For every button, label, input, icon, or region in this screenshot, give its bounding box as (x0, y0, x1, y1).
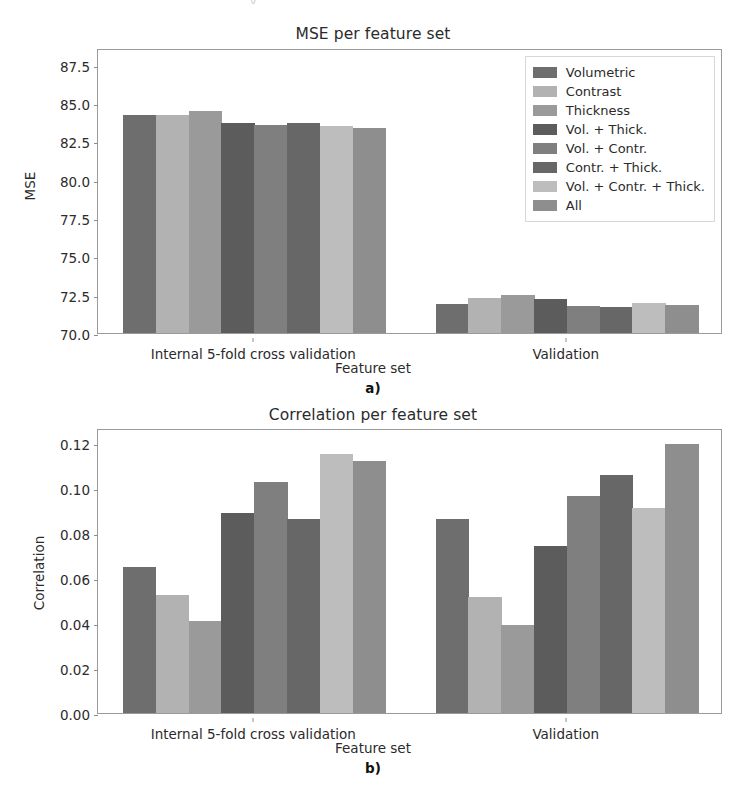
bar (534, 546, 567, 713)
y-tick-mark (94, 105, 98, 106)
y-tick-label: 77.5 (60, 212, 98, 228)
legend-mse: Volumetric Contrast Thickness Vol. + Thi… (525, 56, 715, 222)
y-tick-label: 0.12 (60, 437, 98, 453)
y-tick-label: 0.06 (60, 572, 98, 588)
bar (287, 519, 320, 713)
legend-swatch-icon (533, 181, 557, 192)
y-tick-label: 0.10 (60, 482, 98, 498)
x-axis-ticks-mse: Internal 5-fold cross validationValidati… (97, 338, 722, 358)
bar (123, 115, 156, 333)
figure-page: y MSE per feature set MSE 70.072.575.077… (0, 0, 746, 798)
legend-item-label: Vol. + Thick. (566, 123, 647, 136)
plot-area-correlation: 0.000.020.040.060.080.100.12 (97, 429, 722, 714)
legend-swatch-icon (533, 124, 557, 135)
panel-letter-a: a) (0, 380, 746, 396)
y-tick-label: 72.5 (60, 289, 98, 305)
x-axis-label-correlation: Feature set (0, 740, 746, 756)
bar (254, 125, 287, 333)
y-tick-mark (94, 670, 98, 671)
legend-item: Vol. + Contr. + Thick. (533, 177, 705, 196)
y-tick-mark (94, 445, 98, 446)
bar (534, 299, 567, 333)
x-tick-mark (253, 718, 254, 722)
y-tick-label: 80.0 (60, 174, 98, 190)
legend-item-label: Vol. + Contr. (566, 142, 647, 155)
bar (436, 304, 469, 333)
x-tick-mark (565, 338, 566, 342)
bar (501, 295, 534, 333)
bars-container-correlation (98, 430, 721, 713)
y-tick-mark (94, 625, 98, 626)
y-tick-label: 0.08 (60, 527, 98, 543)
legend-item: Contrast (533, 82, 705, 101)
y-tick-mark (94, 715, 98, 716)
legend-item: Vol. + Thick. (533, 120, 705, 139)
y-tick-label: 70.0 (60, 327, 98, 343)
legend-item: Thickness (533, 101, 705, 120)
bar (468, 597, 501, 713)
bar (632, 303, 665, 333)
legend-item-label: Volumetric (566, 66, 636, 79)
bar (353, 128, 386, 333)
x-axis-label-mse: Feature set (0, 360, 746, 376)
bar (123, 567, 156, 713)
y-tick-mark (94, 535, 98, 536)
legend-swatch-icon (533, 86, 557, 97)
y-tick-mark (94, 143, 98, 144)
y-axis-label-correlation: Correlation (31, 536, 47, 610)
y-tick-mark (94, 182, 98, 183)
legend-swatch-icon (533, 162, 557, 173)
x-axis-ticks-correlation: Internal 5-fold cross validationValidati… (97, 718, 722, 738)
legend-item-label: Thickness (566, 104, 630, 117)
y-tick-label: 87.5 (60, 59, 98, 75)
legend-item: All (533, 196, 705, 215)
panel-letter-b: b) (0, 760, 746, 776)
legend-swatch-icon (533, 105, 557, 116)
y-tick-mark (94, 297, 98, 298)
bar (287, 123, 320, 333)
legend-item: Vol. + Contr. (533, 139, 705, 158)
bar (189, 621, 222, 713)
bar (600, 475, 633, 713)
bar (221, 513, 254, 714)
legend-swatch-icon (533, 67, 557, 78)
chart-title-mse: MSE per feature set (0, 25, 746, 43)
bar (156, 595, 189, 713)
bar (221, 123, 254, 333)
y-axis-label-mse: MSE (22, 172, 38, 201)
y-tick-mark (94, 258, 98, 259)
bar (189, 111, 222, 333)
y-tick-label: 0.04 (60, 617, 98, 633)
panel-b-correlation: Correlation per feature set Correlation … (0, 400, 746, 798)
legend-item-label: Contr. + Thick. (566, 161, 662, 174)
legend-item-label: Vol. + Contr. + Thick. (566, 180, 705, 193)
bar (665, 444, 698, 713)
plot-area-mse: 70.072.575.077.580.082.585.087.5 Volumet… (97, 49, 722, 334)
legend-swatch-icon (533, 200, 557, 211)
legend-swatch-icon (533, 143, 557, 154)
legend-item: Volumetric (533, 63, 705, 82)
y-tick-label: 85.0 (60, 97, 98, 113)
bar (600, 307, 633, 333)
legend-item: Contr. + Thick. (533, 158, 705, 177)
cut-off-caption-sliver: y (250, 0, 720, 4)
bar (567, 496, 600, 713)
legend-item-label: Contrast (566, 85, 622, 98)
bar (468, 298, 501, 333)
y-tick-label: 82.5 (60, 135, 98, 151)
bar (320, 454, 353, 713)
legend-item-label: All (566, 199, 582, 212)
y-tick-label: 0.00 (60, 707, 98, 723)
y-tick-label: 75.0 (60, 250, 98, 266)
bar (320, 126, 353, 333)
y-tick-mark (94, 490, 98, 491)
bar (436, 519, 469, 713)
y-tick-mark (94, 335, 98, 336)
bar (353, 461, 386, 713)
chart-title-correlation: Correlation per feature set (0, 406, 746, 424)
x-tick-mark (253, 338, 254, 342)
y-tick-mark (94, 67, 98, 68)
y-tick-mark (94, 220, 98, 221)
bar (567, 306, 600, 333)
panel-a-mse: MSE per feature set MSE 70.072.575.077.5… (0, 18, 746, 403)
